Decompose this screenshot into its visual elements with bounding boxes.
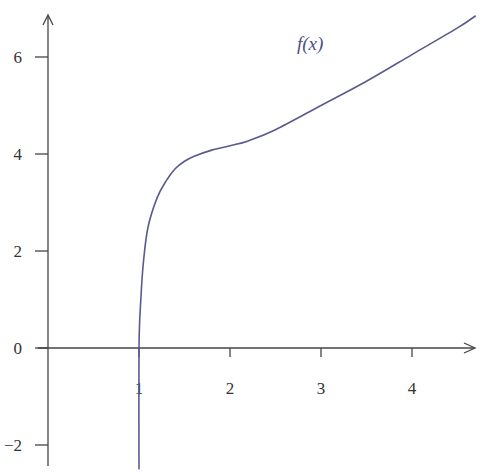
function-curve <box>139 16 476 469</box>
x-tick-label: 3 <box>317 379 326 398</box>
function-label: f(x) <box>297 33 323 55</box>
x-tick-label: 2 <box>226 379 235 398</box>
y-tick-label: 6 <box>14 48 23 67</box>
axis-ticks <box>35 57 412 445</box>
function-plot: 1234−20246 f(x) <box>0 0 484 474</box>
tick-labels: 1234−20246 <box>4 48 417 455</box>
y-tick-label: 0 <box>14 339 23 358</box>
x-tick-label: 4 <box>408 379 417 398</box>
axes <box>38 15 475 466</box>
y-tick-label: 2 <box>14 242 23 261</box>
y-tick-label: 4 <box>14 145 23 164</box>
y-tick-label: −2 <box>4 436 22 455</box>
